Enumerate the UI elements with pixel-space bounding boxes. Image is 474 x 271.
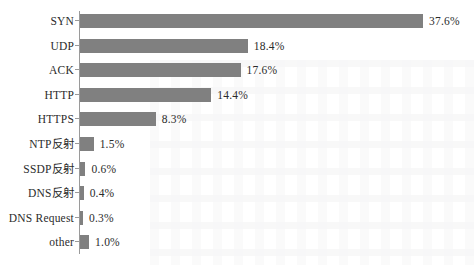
category-label: DNS Request	[9, 208, 74, 228]
bar	[80, 186, 84, 200]
category-label: SYN	[50, 11, 74, 31]
category-label: SSDP反射	[23, 159, 74, 179]
axis-tick	[75, 168, 79, 169]
bar	[80, 235, 89, 249]
bar-chart: SYN37.6%UDP18.4%ACK17.6%HTTP14.4%HTTPS8.…	[0, 0, 474, 271]
category-label: UDP	[50, 36, 74, 56]
category-label: other	[49, 232, 74, 252]
bar-row: HTTPS8.3%	[0, 109, 474, 129]
bar-value-label: 0.6%	[91, 159, 116, 179]
axis-tick	[75, 241, 79, 242]
bar-value-label: 0.3%	[89, 208, 114, 228]
bar-row: HTTP14.4%	[0, 85, 474, 105]
bar	[80, 88, 211, 102]
bar	[80, 137, 94, 151]
bar	[80, 211, 83, 225]
bar-row: SSDP反射0.6%	[0, 159, 474, 179]
bar	[80, 63, 241, 77]
bar-row: UDP18.4%	[0, 36, 474, 56]
plot-area: SYN37.6%UDP18.4%ACK17.6%HTTP14.4%HTTPS8.…	[0, 0, 474, 271]
category-label: HTTP	[44, 85, 74, 105]
axis-tick	[75, 143, 79, 144]
bar-value-label: 18.4%	[254, 36, 285, 56]
bar-value-label: 37.6%	[429, 11, 460, 31]
bar-value-label: 1.0%	[95, 232, 120, 252]
bar-value-label: 0.4%	[90, 183, 115, 203]
category-label: HTTPS	[38, 109, 74, 129]
category-label: NTP反射	[29, 134, 74, 154]
bar-row: DNS Request0.3%	[0, 208, 474, 228]
category-label: DNS反射	[28, 183, 74, 203]
bar-row: other1.0%	[0, 232, 474, 252]
bar-value-label: 1.5%	[100, 134, 125, 154]
bar-value-label: 17.6%	[247, 60, 278, 80]
axis-tick	[75, 192, 79, 193]
bar	[80, 162, 85, 176]
axis-tick	[75, 45, 79, 46]
axis-tick	[75, 69, 79, 70]
axis-tick	[75, 217, 79, 218]
bar	[80, 14, 423, 28]
bar-row: NTP反射1.5%	[0, 134, 474, 154]
axis-tick	[75, 20, 79, 21]
category-label: ACK	[49, 60, 74, 80]
bar	[80, 39, 248, 53]
axis-tick	[75, 118, 79, 119]
bar-row: ACK17.6%	[0, 60, 474, 80]
bar-row: DNS反射0.4%	[0, 183, 474, 203]
bar-value-label: 8.3%	[162, 109, 187, 129]
axis-tick	[75, 94, 79, 95]
bar-row: SYN37.6%	[0, 11, 474, 31]
bar	[80, 112, 156, 126]
bar-value-label: 14.4%	[217, 85, 248, 105]
